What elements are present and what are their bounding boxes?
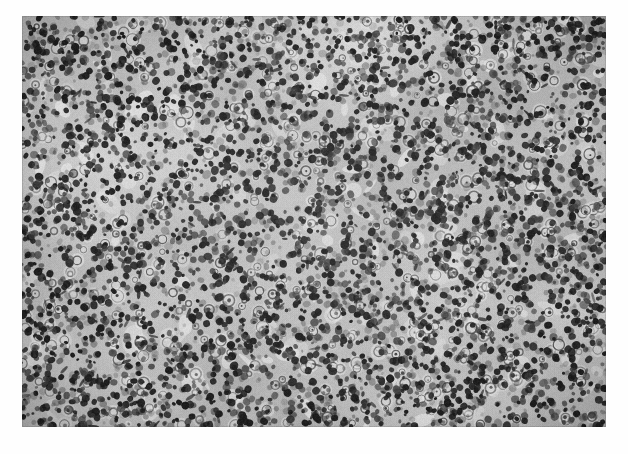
micrograph-image xyxy=(22,16,606,427)
micrograph-figure xyxy=(22,16,606,427)
figure-caption xyxy=(22,432,606,450)
page-root xyxy=(0,0,628,454)
